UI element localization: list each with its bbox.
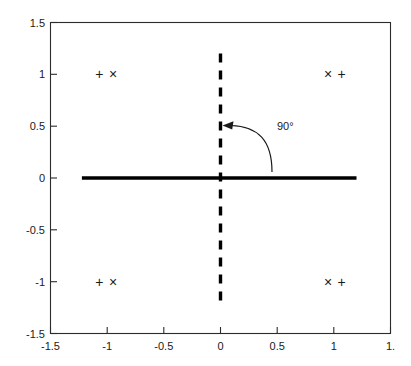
angle-annotation: 90° [223, 120, 294, 172]
y-tick-label-0: 1.5 [30, 17, 45, 29]
marker-bottom-left-plus: + [95, 274, 103, 290]
y-tick-label-1: 1 [39, 68, 45, 80]
x-tick-label-5: 1 [331, 340, 337, 352]
x-tick-label-3: 0 [217, 340, 223, 352]
x-axis-ticks [51, 327, 391, 334]
marker-top-right-plus: + [338, 66, 346, 82]
angle-arc [231, 126, 272, 173]
angle-label: 90° [277, 120, 294, 132]
marker-top-left-cross: × [109, 66, 117, 82]
x-tick-label-0: -1.5 [41, 340, 60, 352]
y-axis-tick-labels: 1.5 1 0.5 0 -0.5 -1 -1.5 [26, 17, 45, 340]
x-tick-label-4: 0.5 [270, 340, 285, 352]
y-tick-label-2: 0.5 [30, 120, 45, 132]
x-tick-label-1: -1 [102, 340, 112, 352]
x-tick-label-2: -0.5 [154, 340, 173, 352]
x-tick-label-6: 1. [386, 340, 395, 352]
y-tick-label-6: -1.5 [26, 328, 45, 340]
y-tick-label-5: -1 [35, 276, 45, 288]
chart-canvas: 1.5 1 0.5 0 -0.5 -1 -1.5 -1.5 -1 -0.5 0 … [0, 0, 411, 366]
marker-bottom-left-cross: × [109, 274, 117, 290]
y-tick-label-3: 0 [39, 172, 45, 184]
x-axis-tick-labels: -1.5 -1 -0.5 0 0.5 1 1. [41, 340, 395, 352]
y-axis-ticks [51, 23, 58, 334]
marker-top-right-cross: × [324, 66, 332, 82]
figure-container: 1.5 1 0.5 0 -0.5 -1 -1.5 -1.5 -1 -0.5 0 … [0, 0, 411, 366]
angle-arrow-head-icon [223, 121, 234, 129]
y-tick-label-4: -0.5 [26, 224, 45, 236]
marker-bottom-right-cross: × [324, 274, 332, 290]
marker-top-left-plus: + [95, 66, 103, 82]
marker-bottom-right-plus: + [338, 274, 346, 290]
